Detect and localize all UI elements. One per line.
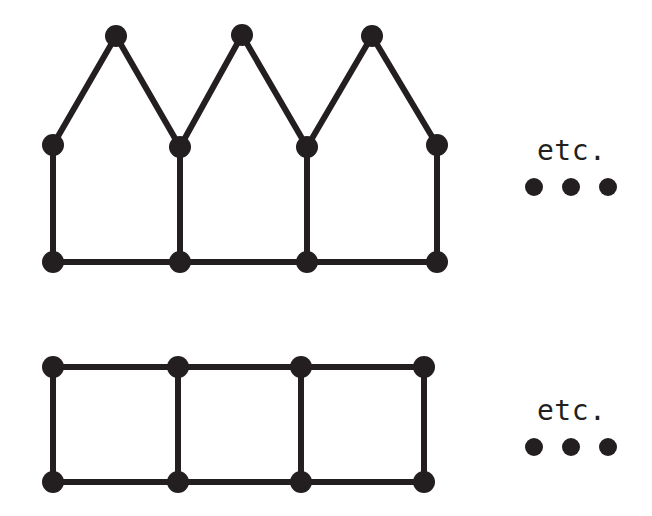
graph-vertex (42, 356, 64, 378)
graph-vertex (167, 471, 189, 493)
graph-edge (180, 35, 242, 147)
graph-vertex (296, 136, 318, 158)
continuation-dot (599, 438, 617, 456)
graph-vertex (105, 25, 127, 47)
continuation-dot (525, 178, 543, 196)
graph-vertex (42, 471, 64, 493)
graph-vertex (426, 251, 448, 273)
graph-vertex (290, 356, 312, 378)
graph-vertex (167, 356, 189, 378)
top-figure (42, 24, 617, 273)
graph-vertex (296, 251, 318, 273)
graph-vertex (169, 136, 191, 158)
graph-vertex (169, 251, 191, 273)
etc-label-top-figure: etc. (537, 137, 606, 165)
continuation-dot (562, 438, 580, 456)
graph-vertex (290, 471, 312, 493)
etc-label-bottom-figure: etc. (537, 397, 606, 425)
graph-vertex (42, 134, 64, 156)
continuation-dot (599, 178, 617, 196)
graph-diagram-canvas (0, 0, 652, 516)
graph-vertex (42, 251, 64, 273)
bottom-figure (42, 356, 617, 493)
graph-edge (372, 36, 437, 145)
graph-vertex (231, 24, 253, 46)
graph-edge (116, 36, 180, 147)
graph-vertex (426, 134, 448, 156)
continuation-dot (525, 438, 543, 456)
graph-edge (242, 35, 307, 147)
graph-vertex (413, 356, 435, 378)
graph-edge (307, 36, 372, 147)
graph-edge (53, 36, 116, 145)
graph-vertex (361, 25, 383, 47)
graph-vertex (413, 471, 435, 493)
continuation-dot (562, 178, 580, 196)
